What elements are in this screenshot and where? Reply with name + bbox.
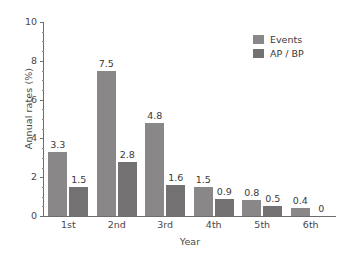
- bar-value-label: 1.5: [188, 175, 219, 185]
- y-tick-label: 0: [31, 211, 37, 221]
- bar-value-label: 2.8: [112, 150, 143, 160]
- bar-value-label: 3.3: [42, 140, 73, 150]
- y-tick-major: [40, 216, 44, 217]
- bar-value-label: 0.5: [257, 194, 288, 204]
- bar: [166, 185, 185, 216]
- x-tick-label: 6th: [287, 220, 336, 230]
- x-axis-title: Year: [44, 236, 336, 247]
- legend-label-apbp: AP / BP: [270, 49, 304, 59]
- bar: [69, 187, 88, 216]
- bar-value-label: 7.5: [91, 59, 122, 69]
- y-tick-label: 10: [25, 17, 37, 27]
- legend-item-events: Events: [253, 33, 304, 46]
- chart-legend: Events AP / BP: [253, 33, 304, 61]
- x-tick-label: 5th: [238, 220, 287, 230]
- bar-value-label: 0: [306, 204, 337, 214]
- bar: [263, 206, 282, 216]
- x-tick-label: 1st: [44, 220, 93, 230]
- y-tick-label: 8: [31, 56, 37, 66]
- bar-value-label: 1.6: [160, 173, 191, 183]
- bar: [145, 123, 164, 216]
- x-axis-line: [43, 216, 336, 217]
- x-tick-label: 3rd: [141, 220, 190, 230]
- y-tick-label: 4: [31, 134, 37, 144]
- legend-item-apbp: AP / BP: [253, 47, 304, 60]
- legend-swatch-events: [253, 35, 264, 44]
- x-tick-label: 2nd: [93, 220, 142, 230]
- bar: [215, 199, 234, 216]
- legend-label-events: Events: [270, 35, 302, 45]
- bar-value-label: 1.5: [63, 175, 94, 185]
- bar: [118, 162, 137, 216]
- bar: [97, 71, 116, 217]
- bar-value-label: 4.8: [139, 111, 170, 121]
- x-tick-label: 4th: [190, 220, 239, 230]
- y-tick-label: 2: [31, 172, 37, 182]
- bar-value-label: 0.9: [209, 187, 240, 197]
- bar-chart-figure: Annual rates (%) Year 0246810 Events AP …: [0, 0, 348, 253]
- y-axis-ticks: 0246810: [0, 0, 44, 217]
- y-tick-label: 6: [31, 95, 37, 105]
- legend-swatch-apbp: [253, 49, 264, 58]
